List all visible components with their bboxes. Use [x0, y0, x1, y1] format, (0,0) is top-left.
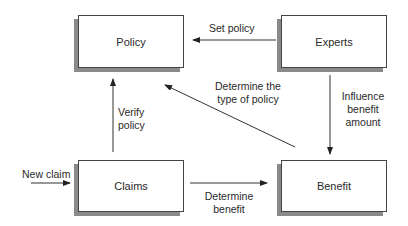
label-set-policy: Set policy: [209, 22, 255, 35]
label-determine-benefit: Determine benefit: [198, 190, 260, 216]
node-experts: Experts: [281, 15, 387, 68]
node-claims: Claims: [78, 160, 184, 212]
label-determine-type: Determine the type of policy: [213, 80, 283, 106]
label-verify-policy: Verify policy: [118, 106, 145, 132]
node-benefit: Benefit: [281, 160, 387, 212]
node-experts-label: Experts: [315, 36, 352, 48]
label-influence-benefit: Influence benefit amount: [337, 90, 389, 129]
label-new-claim: New claim: [22, 168, 70, 181]
node-benefit-label: Benefit: [317, 180, 351, 192]
node-policy: Policy: [78, 15, 184, 68]
node-policy-label: Policy: [116, 36, 145, 48]
node-claims-label: Claims: [114, 180, 148, 192]
